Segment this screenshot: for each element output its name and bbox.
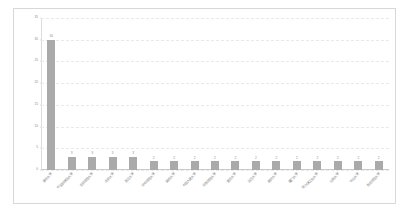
bar-slot: 30 xyxy=(41,18,61,170)
bar-slot: 2 xyxy=(225,18,245,170)
bar[interactable] xyxy=(47,40,55,170)
y-axis-tick-label: 0 xyxy=(36,168,38,171)
bar-value-label: 2 xyxy=(357,157,359,160)
x-axis-category-label-text: 清华大学 xyxy=(43,173,54,184)
bar-value-label: 2 xyxy=(153,157,155,160)
bar-slot: 2 xyxy=(348,18,368,170)
bar-slot: 3 xyxy=(102,18,122,170)
bar-value-label: 2 xyxy=(255,157,257,160)
y-axis-tick-label: 30 xyxy=(34,38,38,41)
x-axis-category-label-text: 中山大学 xyxy=(350,173,361,184)
bar-slot: 2 xyxy=(184,18,204,170)
bar-slot: 2 xyxy=(266,18,286,170)
y-axis-tick-label: 15 xyxy=(34,103,38,106)
x-axis-category-label-text: 厦门大学 xyxy=(288,173,299,184)
bar-slot: 3 xyxy=(82,18,102,170)
y-axis-tick-label: 20 xyxy=(34,82,38,85)
bar-value-label: 2 xyxy=(194,157,196,160)
bars-layer: 303333222222222222 xyxy=(41,18,389,170)
x-axis-category-label-text: 东北师范大学 xyxy=(366,173,381,188)
x-axis-category-label-text: 复旦大学 xyxy=(227,173,238,184)
x-axis-category-label-text: 山东大学 xyxy=(329,173,340,184)
bar-slot: 2 xyxy=(328,18,348,170)
x-axis-category-label-text: 中国科学院大学 xyxy=(57,173,74,190)
bar-slot: 3 xyxy=(123,18,143,170)
bar-slot: 2 xyxy=(143,18,163,170)
bar-value-label: 2 xyxy=(337,157,339,160)
chart-card: 05101520253035 303333222222222222 清华大学中国… xyxy=(13,8,396,204)
bar-value-label: 3 xyxy=(112,152,114,155)
y-axis-tick-label: 25 xyxy=(34,60,38,63)
bar-value-label: 3 xyxy=(91,152,93,155)
plot-area: 05101520253035 303333222222222222 xyxy=(41,18,389,170)
bar-slot: 3 xyxy=(61,18,81,170)
x-axis-category-label-text: 武汉大学 xyxy=(247,173,258,184)
x-axis-category-labels: 清华大学中国科学院大学北京师范大学北京大学浙江大学华中师范大学南京大学中国人民大… xyxy=(41,171,389,201)
bar-slot: 2 xyxy=(246,18,266,170)
bar[interactable] xyxy=(68,157,76,170)
bar-value-label: 2 xyxy=(276,157,278,160)
bar-slot: 2 xyxy=(164,18,184,170)
x-axis-category-label-text: 浙江大学 xyxy=(125,173,136,184)
bar-value-label: 2 xyxy=(235,157,237,160)
x-axis-category-label-text: 华东师范大学 xyxy=(202,173,217,188)
y-axis-tick-label: 5 xyxy=(36,147,38,150)
bar-value-label: 3 xyxy=(71,152,73,155)
bar-value-label: 3 xyxy=(132,152,134,155)
x-axis-category-label-text: 中国人民大学 xyxy=(182,173,197,188)
bar-value-label: 2 xyxy=(316,157,318,160)
bar-slot: 2 xyxy=(307,18,327,170)
x-axis-category-label-text: 南开大学 xyxy=(268,173,279,184)
bar-slot: 2 xyxy=(287,18,307,170)
bar-value-label: 2 xyxy=(214,157,216,160)
y-axis-tick-label: 35 xyxy=(34,16,38,19)
bar[interactable] xyxy=(191,161,199,170)
x-axis-category-label-text: 南京大学 xyxy=(165,173,176,184)
bar[interactable] xyxy=(129,157,137,170)
x-axis-category-label-text: 北京大学 xyxy=(104,173,115,184)
x-axis-category-label-text: 北京师范大学 xyxy=(79,173,94,188)
bar-slot: 2 xyxy=(205,18,225,170)
x-axis-category-label-text: 华中师范大学 xyxy=(141,173,156,188)
bar-value-label: 30 xyxy=(49,35,53,38)
bar-slot: 2 xyxy=(369,18,389,170)
bar[interactable] xyxy=(109,157,117,170)
y-axis-tick-label: 10 xyxy=(34,125,38,128)
bar-value-label: 2 xyxy=(173,157,175,160)
bar-value-label: 2 xyxy=(378,157,380,160)
bar-value-label: 2 xyxy=(296,157,298,160)
x-axis-category-label-text: 哈尔滨工业大学 xyxy=(302,173,319,190)
